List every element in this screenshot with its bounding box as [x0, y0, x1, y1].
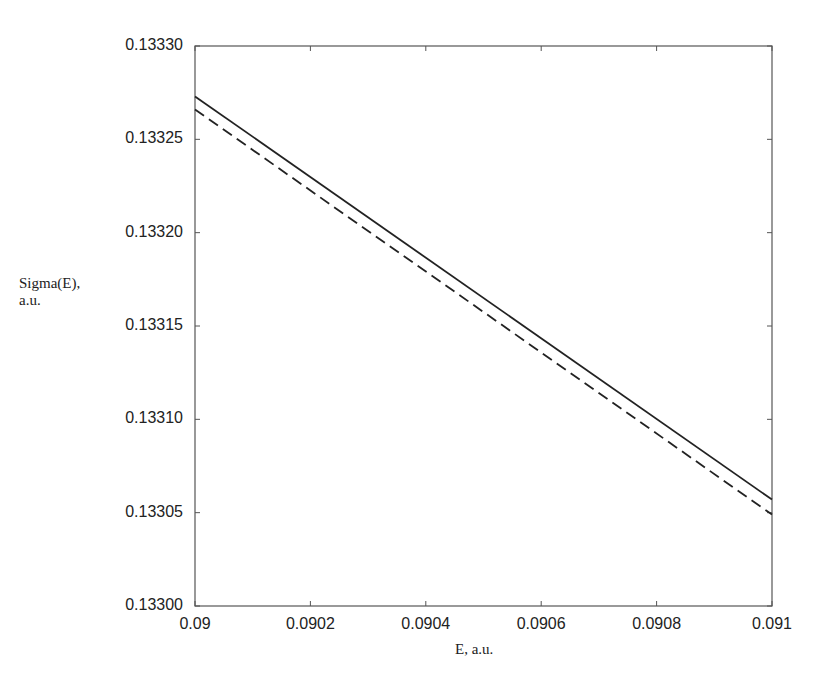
- x-axis-label: E, a.u.: [455, 641, 493, 658]
- y-axis-label-line2: a.u.: [19, 292, 80, 309]
- y-tick-label: 0.13315: [125, 316, 183, 334]
- chart-plot: [0, 0, 817, 675]
- series-solid-line: [195, 96, 772, 499]
- x-tick-label: 0.0906: [517, 615, 566, 633]
- x-tick-label: 0.0902: [286, 615, 335, 633]
- x-tick-label: 0.09: [179, 615, 210, 633]
- data-series: [195, 96, 772, 514]
- axes-frame: [195, 46, 772, 606]
- series-dashed-line: [195, 109, 772, 514]
- y-axis-label: Sigma(E), a.u.: [19, 275, 80, 309]
- x-tick-label: 0.091: [752, 615, 792, 633]
- plot-border: [195, 46, 772, 606]
- y-tick-label: 0.13305: [125, 503, 183, 521]
- y-tick-label: 0.13330: [125, 36, 183, 54]
- x-tick-label: 0.0908: [632, 615, 681, 633]
- axis-ticks: [195, 46, 772, 606]
- y-tick-label: 0.13320: [125, 223, 183, 241]
- x-tick-label: 0.0904: [401, 615, 450, 633]
- y-tick-label: 0.13310: [125, 409, 183, 427]
- y-axis-label-line1: Sigma(E),: [19, 275, 80, 292]
- y-tick-label: 0.13325: [125, 129, 183, 147]
- y-tick-label: 0.13300: [125, 596, 183, 614]
